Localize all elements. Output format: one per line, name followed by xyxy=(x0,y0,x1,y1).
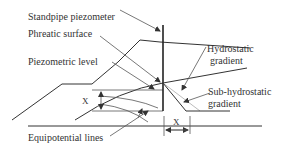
equipotential-leader-arrow xyxy=(110,111,148,136)
standpipe-leader-arrow xyxy=(120,10,160,31)
equipotential-lines-label: Equipotential lines xyxy=(28,132,103,143)
piezometric-leader-arrow xyxy=(112,62,154,89)
hydrostatic-label-line1: Hydrostatic xyxy=(207,43,254,54)
diagram-svg: X X Standpipe piezometer Phreatic surfac… xyxy=(0,0,281,150)
hydrostatic-label-line2: gradient xyxy=(210,55,243,66)
subhydrostatic-label-line2: gradient xyxy=(208,98,241,109)
hydrostatic-gradient-line xyxy=(163,83,200,111)
piezometer-diagram: X X Standpipe piezometer Phreatic surfac… xyxy=(0,0,281,150)
subhydrostatic-leader-arrow xyxy=(184,93,210,102)
standpipe-piezometer-label: Standpipe piezometer xyxy=(28,11,116,22)
phreatic-leader-arrow xyxy=(100,36,160,82)
subhydrostatic-label-line1: Sub-hydrostatic xyxy=(208,86,272,97)
phreatic-surface-label: Phreatic surface xyxy=(28,28,93,39)
x-horizontal-label: X xyxy=(173,117,180,127)
x-vertical-label: X xyxy=(82,96,89,106)
equipotential-line-1 xyxy=(100,96,158,108)
equipotential-line-2 xyxy=(100,104,148,122)
hydrostatic-leader-arrow xyxy=(182,47,206,90)
piezometric-level-label: Piezometric level xyxy=(28,56,98,67)
